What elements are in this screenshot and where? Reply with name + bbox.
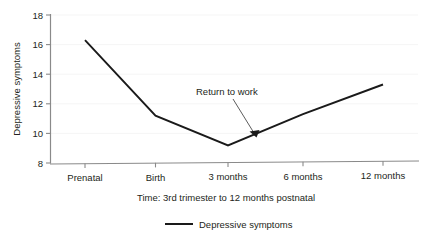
annotation-return-to-work: Return to work — [196, 86, 258, 97]
x-tick-label-birth: Birth — [146, 172, 166, 183]
y-tick-label-18: 18 — [32, 10, 43, 21]
y-tick-label-12: 12 — [32, 98, 43, 109]
y-tick-label-8: 8 — [38, 158, 43, 169]
x-tick-label-12-months: 12 months — [361, 170, 406, 181]
chart-figure: 18 16 14 12 10 8 Prenatal Birth 3 months… — [0, 0, 423, 243]
x-tick-label-prenatal: Prenatal — [67, 172, 102, 183]
chart-background — [0, 0, 423, 243]
line-chart: 18 16 14 12 10 8 Prenatal Birth 3 months… — [0, 0, 423, 243]
x-tick-label-6-months: 6 months — [283, 171, 322, 182]
x-tick-label-3-months: 3 months — [208, 171, 247, 182]
y-tick-label-10: 10 — [32, 128, 43, 139]
legend-label-depressive-symptoms: Depressive symptoms — [199, 219, 293, 230]
y-tick-label-16: 16 — [32, 39, 43, 50]
x-axis-title: Time: 3rd trimester to 12 months postnat… — [137, 192, 315, 203]
y-tick-label-14: 14 — [32, 69, 43, 80]
y-axis-title: Depressive symptoms — [11, 42, 22, 136]
